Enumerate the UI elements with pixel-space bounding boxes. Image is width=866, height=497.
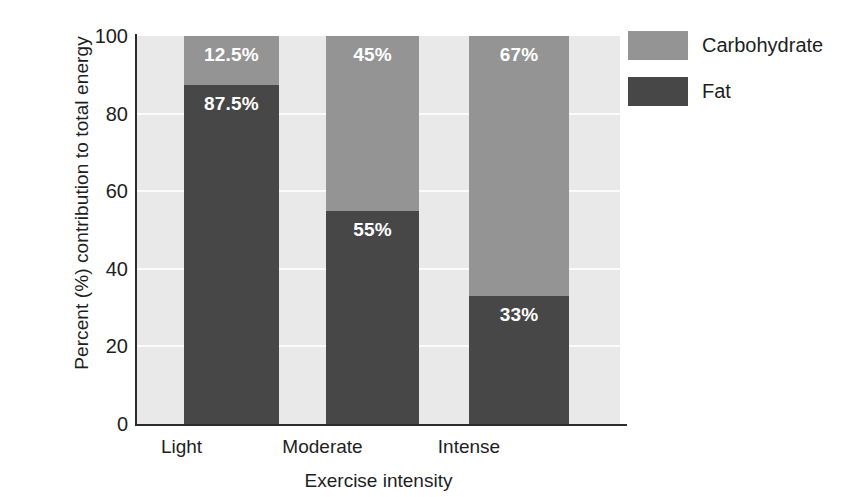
- legend-swatch-fat: [628, 77, 688, 106]
- bar-segment-label-carbohydrate: 67%: [469, 44, 569, 66]
- bar-segment-fat: 87.5%: [184, 85, 279, 425]
- x-tick-label-intense: Intense: [419, 436, 519, 458]
- bar-segment-fat: 55%: [326, 211, 419, 424]
- x-axis-line: [135, 424, 627, 426]
- y-tick-label: 100: [58, 26, 128, 46]
- legend: Carbohydrate Fat: [628, 30, 823, 122]
- y-tick-label: 20: [58, 336, 128, 356]
- bar-segment-carbohydrate: 45%: [326, 36, 419, 211]
- legend-item-carbohydrate: Carbohydrate: [628, 30, 823, 60]
- stacked-bar-chart: Percent (%) contribution to total energy…: [0, 0, 866, 497]
- bar-segment-carbohydrate: 67%: [469, 36, 569, 296]
- bar-segment-label-carbohydrate: 45%: [326, 44, 419, 66]
- x-axis-title: Exercise intensity: [137, 470, 620, 492]
- y-axis-tick-labels: 100 80 60 40 20 0: [58, 0, 128, 497]
- bar-segment-label-fat: 87.5%: [184, 93, 279, 115]
- bar-intense: 33% 67%: [469, 36, 569, 424]
- y-tick-label: 40: [58, 259, 128, 279]
- legend-label-carbohydrate: Carbohydrate: [702, 34, 823, 57]
- legend-label-fat: Fat: [702, 80, 731, 103]
- plot-area: 87.5% 12.5% 55% 45% 33% 67%: [137, 36, 620, 424]
- y-tick-label: 60: [58, 181, 128, 201]
- y-tick-label: 80: [58, 104, 128, 124]
- bar-segment-label-fat: 33%: [469, 304, 569, 326]
- bar-moderate: 55% 45%: [326, 36, 419, 424]
- bar-segment-label-carbohydrate: 12.5%: [184, 44, 279, 66]
- y-axis-line: [135, 34, 137, 426]
- bar-segment-fat: 33%: [469, 296, 569, 424]
- legend-swatch-carbohydrate: [628, 31, 688, 60]
- x-tick-label-moderate: Moderate: [276, 436, 369, 458]
- bar-light: 87.5% 12.5%: [184, 36, 279, 424]
- y-tick-label: 0: [58, 414, 128, 434]
- bar-segment-carbohydrate: 12.5%: [184, 36, 279, 85]
- bar-segment-label-fat: 55%: [326, 219, 419, 241]
- x-tick-label-light: Light: [134, 436, 229, 458]
- legend-item-fat: Fat: [628, 76, 823, 106]
